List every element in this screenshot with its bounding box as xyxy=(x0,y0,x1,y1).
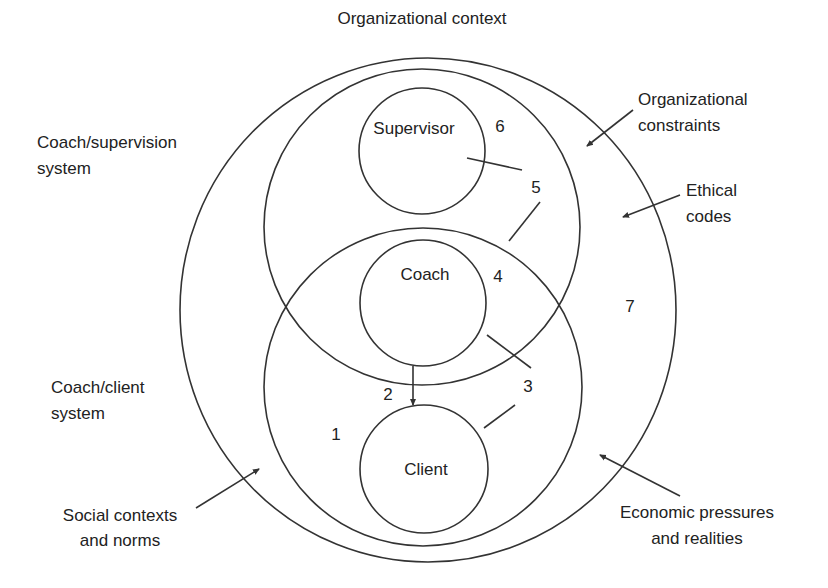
region-5-pointer-line xyxy=(509,202,540,241)
region-6-label: 6 xyxy=(495,117,504,136)
coaching-systems-diagram: Organizational context Supervisor Coach … xyxy=(0,0,828,588)
region-7-label: 7 xyxy=(625,297,634,316)
supervisor-circle xyxy=(359,88,485,214)
coach-circle xyxy=(360,240,486,366)
ethical-codes-label-line2: codes xyxy=(686,207,731,226)
organizational-constraints-arrow xyxy=(587,110,633,146)
social-contexts-label-line2: and norms xyxy=(80,531,160,550)
organizational-constraints-label-line2: constraints xyxy=(638,116,720,135)
region-4-label: 4 xyxy=(493,267,502,286)
region-1-label: 1 xyxy=(331,425,340,444)
economic-pressures-label-line1: Economic pressures xyxy=(620,503,774,522)
economic-pressures-label-line2: and realities xyxy=(651,529,743,548)
social-contexts-label-line1: Social contexts xyxy=(63,506,177,525)
region-5-label: 5 xyxy=(531,178,540,197)
title-organizational-context: Organizational context xyxy=(337,9,506,28)
ethical-codes-label-line1: Ethical xyxy=(686,181,737,200)
coach-supervision-system-label-line1: Coach/supervision xyxy=(37,133,177,152)
coach-supervision-system-label-line2: system xyxy=(37,159,91,178)
region-3-label: 3 xyxy=(523,377,532,396)
coach-client-system-label-line2: system xyxy=(51,404,105,423)
client-label: Client xyxy=(404,460,448,479)
region-2-label: 2 xyxy=(383,385,392,404)
ethical-codes-arrow xyxy=(623,195,680,217)
social-contexts-arrow xyxy=(196,469,259,508)
region-6-5-pointer-line xyxy=(467,158,522,170)
supervisor-label: Supervisor xyxy=(373,119,455,138)
region-3-pointer-line-lower xyxy=(484,405,515,428)
region-3-pointer-line-upper xyxy=(487,335,531,368)
coach-supervision-system-circle xyxy=(264,69,580,385)
coach-client-system-label-line1: Coach/client xyxy=(51,378,145,397)
economic-pressures-arrow xyxy=(600,455,680,496)
coach-label: Coach xyxy=(400,265,449,284)
organizational-constraints-label-line1: Organizational xyxy=(638,90,748,109)
